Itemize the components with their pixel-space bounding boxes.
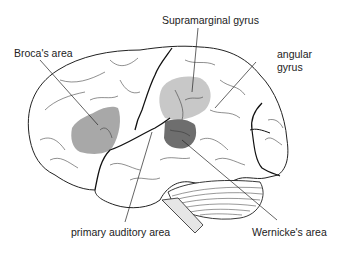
wernicke-area-shape xyxy=(164,119,196,148)
label-angular-line2: gyrus xyxy=(277,61,303,73)
label-supramarginal-gyrus: Supramarginal gyrus xyxy=(162,14,259,26)
label-angular-line1: angular xyxy=(277,48,312,60)
label-broca-area: Broca's area xyxy=(14,47,73,59)
label-wernicke-area: Wernicke's area xyxy=(252,226,327,238)
label-primary-auditory-area: primary auditory area xyxy=(71,226,170,238)
brain-diagram: Supramarginal gyrus Broca's area angular… xyxy=(0,0,343,253)
brain-illustration xyxy=(0,0,343,253)
